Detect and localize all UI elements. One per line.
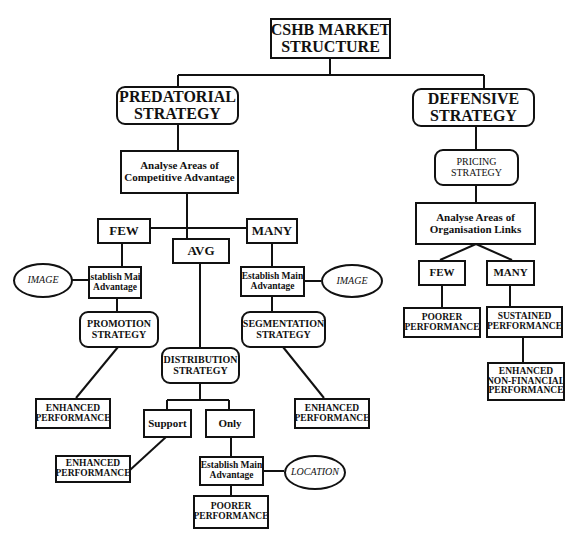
predatorial-line-1: PREDATORIAL: [119, 89, 236, 106]
few-establish-line-2: Advantage: [93, 283, 137, 293]
pricing-line-1: PRICING: [456, 157, 496, 168]
few-establish-line-1: Establish Main: [88, 273, 142, 283]
root-line-1: CSHB MARKET: [271, 22, 391, 39]
non-financial-line-3: PERFORMANCE: [489, 386, 564, 396]
many-establish-line-1: Establish Main: [242, 272, 304, 282]
predatorial-few-label: FEW: [109, 224, 139, 238]
segmentation-line-1: SEGMENTATION: [243, 319, 324, 330]
promotion-outcome-line-2: PERFORMANCE: [36, 414, 111, 424]
promotion-strategy-node: PROMOTION STRATEGY: [79, 311, 159, 348]
few-establish-advantage-node: Establish Main Advantage: [88, 266, 142, 299]
predatorial-few-node: FEW: [97, 218, 151, 244]
defensive-many-label: MANY: [493, 267, 527, 279]
support-enhanced-performance-node: ENHANCED PERFORMANCE: [55, 455, 131, 483]
defensive-few-node: FEW: [418, 260, 466, 286]
predatorial-many-label: MANY: [252, 224, 292, 238]
promotion-line-2: STRATEGY: [92, 330, 146, 341]
many-image-ellipse: IMAGE: [321, 264, 383, 298]
only-establish-line-2: Advantage: [210, 471, 254, 481]
segmentation-enhanced-performance-node: ENHANCED PERFORMANCE: [294, 398, 370, 429]
analyse-competitive-advantage-node: Analyse Areas of Competitive Advantage: [120, 150, 239, 194]
segmentation-outcome-line-1: ENHANCED: [305, 404, 359, 414]
distribution-line-1: DISTRIBUTION: [164, 355, 238, 366]
analyse-organisation-links-node: Analyse Areas of Organisation Links: [415, 202, 536, 245]
segmentation-outcome-line-2: PERFORMANCE: [295, 414, 370, 424]
only-node: Only: [205, 409, 255, 438]
support-label: Support: [148, 418, 187, 430]
defensive-many-node: MANY: [486, 260, 535, 286]
predatorial-many-node: MANY: [246, 218, 298, 244]
defensive-poorer-line-1: POORER: [422, 313, 463, 323]
pricing-line-2: STRATEGY: [451, 168, 502, 179]
defensive-poorer-performance-node: POORER PERFORMANCE: [403, 307, 481, 338]
defensive-few-label: FEW: [429, 267, 454, 279]
few-image-label: IMAGE: [27, 275, 58, 286]
many-establish-line-2: Advantage: [251, 282, 295, 292]
predatorial-strategy-node: PREDATORIAL STRATEGY: [116, 86, 239, 125]
location-label: LOCATION: [291, 467, 339, 478]
only-label: Only: [218, 418, 241, 430]
promotion-enhanced-performance-node: ENHANCED PERFORMANCE: [35, 398, 111, 429]
predatorial-avg-node: AVG: [172, 238, 230, 264]
distribution-strategy-node: DISTRIBUTION STRATEGY: [161, 347, 240, 384]
sustained-performance-node: SUSTAINED PERFORMANCE: [486, 306, 563, 338]
pricing-strategy-node: PRICING STRATEGY: [434, 149, 519, 186]
analyse-organisation-line-1: Analyse Areas of: [436, 212, 515, 224]
promotion-outcome-line-1: ENHANCED: [46, 404, 100, 414]
only-establish-advantage-node: Establish Main Advantage: [199, 456, 264, 486]
support-outcome-line-2: PERFORMANCE: [56, 469, 131, 479]
predatorial-line-2: STRATEGY: [134, 106, 221, 123]
enhanced-non-financial-performance-node: ENHANCED NON-FINANCIAL PERFORMANCE: [487, 362, 565, 401]
segmentation-strategy-node: SEGMENTATION STRATEGY: [241, 311, 326, 348]
defensive-line-1: DEFENSIVE: [428, 91, 520, 108]
defensive-line-2: STRATEGY: [430, 108, 517, 125]
support-node: Support: [143, 409, 192, 438]
defensive-poorer-line-2: PERFORMANCE: [405, 323, 480, 333]
analyse-organisation-line-2: Organisation Links: [430, 224, 521, 236]
only-poorer-performance-node: POORER PERFORMANCE: [193, 495, 269, 529]
many-establish-advantage-node: Establish Main Advantage: [240, 266, 305, 297]
distribution-line-2: STRATEGY: [173, 366, 227, 377]
root-node-market-structure: CSHB MARKET STRUCTURE: [270, 18, 391, 59]
only-outcome-line-2: PERFORMANCE: [194, 512, 269, 522]
defensive-strategy-node: DEFENSIVE STRATEGY: [412, 88, 535, 127]
root-line-2: STRUCTURE: [281, 39, 380, 56]
predatorial-avg-label: AVG: [187, 244, 214, 258]
segmentation-line-2: STRATEGY: [256, 330, 310, 341]
analyse-competitive-line-2: Competitive Advantage: [124, 172, 234, 184]
promotion-line-1: PROMOTION: [87, 319, 151, 330]
few-image-ellipse: IMAGE: [13, 263, 73, 298]
location-ellipse: LOCATION: [284, 455, 346, 490]
many-image-label: IMAGE: [336, 276, 367, 287]
sustained-line-2: PERFORMANCE: [487, 322, 562, 332]
